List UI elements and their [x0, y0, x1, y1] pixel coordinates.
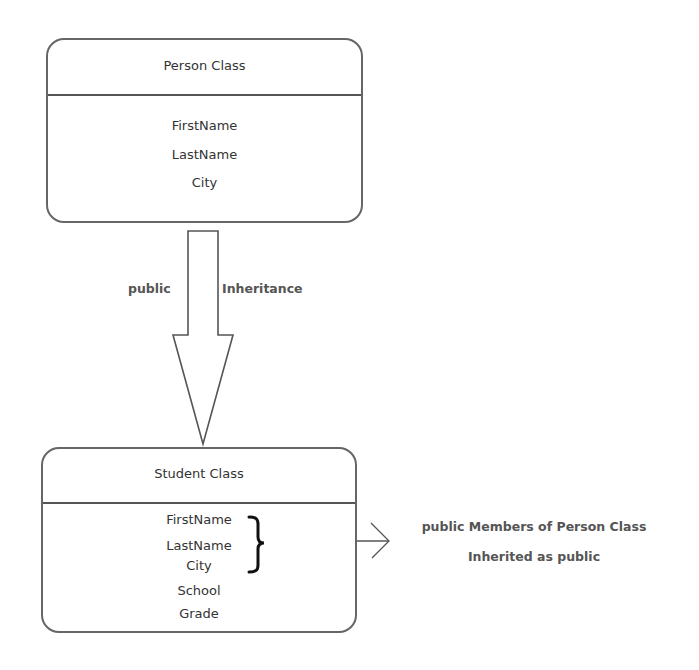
student-member-school: School: [43, 583, 355, 599]
inheritance-access-label: public: [128, 281, 171, 297]
person-class-box: Person Class FirstName LastName City: [46, 38, 363, 223]
student-member-lastname: LastName: [43, 538, 355, 554]
annotation-line-1: public Members of Person Class: [408, 519, 660, 535]
student-member-grade: Grade: [43, 606, 355, 622]
student-class-title: Student Class: [43, 466, 355, 481]
person-member-lastname: LastName: [48, 147, 361, 163]
student-member-city: City: [43, 558, 355, 574]
person-class-divider: [48, 94, 361, 96]
annotation-line-2: Inherited as public: [408, 549, 660, 565]
student-class-box: Student Class FirstName LastName City Sc…: [41, 447, 357, 633]
inheritance-arrow-icon: [173, 231, 233, 444]
person-class-title: Person Class: [48, 58, 361, 73]
person-member-firstname: FirstName: [48, 118, 361, 134]
student-class-divider: [43, 502, 355, 504]
inheritance-type-label: Inheritance: [222, 281, 303, 297]
student-member-firstname: FirstName: [43, 512, 355, 528]
person-member-city: City: [48, 175, 361, 191]
